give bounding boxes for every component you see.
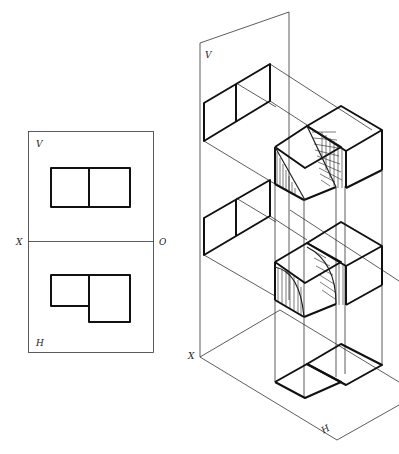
label-v-left: V xyxy=(36,139,44,149)
pictorial-panel: V X H xyxy=(187,12,399,440)
label-x-right: X xyxy=(187,351,195,361)
label-x-left: X xyxy=(15,237,23,247)
projection-frame xyxy=(29,132,154,353)
label-o: O xyxy=(159,237,167,247)
top-view xyxy=(51,275,130,322)
lower-left-box xyxy=(204,180,270,255)
label-h-left: H xyxy=(35,338,44,348)
h-plane xyxy=(200,357,399,440)
label-h-right: H xyxy=(319,423,332,436)
front-view xyxy=(51,168,130,207)
upper-left-box xyxy=(204,64,270,141)
label-v-right: V xyxy=(205,50,213,60)
upper-solid xyxy=(275,106,382,200)
lower-solid xyxy=(275,222,382,317)
projection-diagram: V X O H V X H xyxy=(0,0,399,454)
orthographic-panel: V X O H xyxy=(15,132,167,353)
projector-lines xyxy=(204,64,399,398)
top-projection-footprint xyxy=(275,344,382,398)
